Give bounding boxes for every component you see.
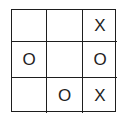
cell-0-2[interactable]: X [83, 10, 117, 42]
cell-2-0[interactable] [12, 78, 47, 113]
cell-0-0[interactable] [12, 10, 47, 42]
cell-1-2[interactable]: O [83, 42, 117, 78]
cell-0-1[interactable] [47, 10, 83, 42]
cell-2-2[interactable]: X [83, 78, 117, 113]
cell-2-1[interactable]: O [47, 78, 83, 113]
tic-tac-toe-board: X O O O X [11, 9, 116, 112]
cell-1-0[interactable]: O [12, 42, 47, 78]
cell-1-1[interactable] [47, 42, 83, 78]
